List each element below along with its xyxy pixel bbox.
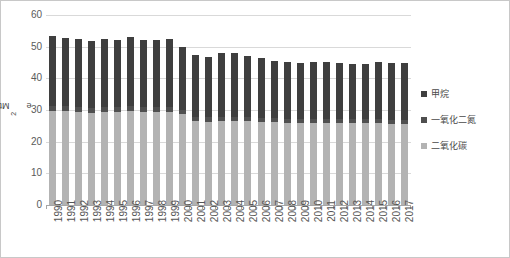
stacked-bar[interactable] [114, 40, 121, 205]
bar-slot[interactable] [359, 15, 372, 205]
stacked-bar[interactable] [323, 62, 330, 205]
bar-slot[interactable] [320, 15, 333, 205]
bar-slot[interactable] [176, 15, 189, 205]
bar-segment[interactable] [231, 121, 238, 205]
stacked-bar[interactable] [271, 61, 278, 205]
bar-slot[interactable] [398, 15, 411, 205]
bar-segment[interactable] [127, 111, 134, 205]
legend-item[interactable]: 二氧化碳 [421, 139, 507, 152]
stacked-bar[interactable] [231, 53, 238, 205]
bar-slot[interactable] [202, 15, 215, 205]
bar-segment[interactable] [75, 112, 82, 205]
bar-segment[interactable] [192, 121, 199, 205]
bar-segment[interactable] [310, 123, 317, 205]
bar-segment[interactable] [153, 40, 160, 107]
bar-segment[interactable] [205, 57, 212, 118]
bar-segment[interactable] [88, 113, 95, 205]
legend-item[interactable]: 甲烷 [421, 87, 507, 100]
bar-slot[interactable] [124, 15, 137, 205]
bar-segment[interactable] [88, 41, 95, 108]
bar-segment[interactable] [75, 39, 82, 107]
bar-segment[interactable] [49, 36, 56, 106]
stacked-bar[interactable] [401, 63, 408, 205]
bar-segment[interactable] [166, 39, 173, 106]
stacked-bar[interactable] [388, 63, 395, 205]
bar-slot[interactable] [98, 15, 111, 205]
stacked-bar[interactable] [375, 62, 382, 205]
bar-segment[interactable] [349, 64, 356, 118]
bar-segment[interactable] [62, 111, 69, 205]
bar-slot[interactable] [150, 15, 163, 205]
bar-segment[interactable] [153, 112, 160, 205]
bar-slot[interactable] [255, 15, 268, 205]
bar-segment[interactable] [388, 124, 395, 205]
bar-segment[interactable] [323, 123, 330, 205]
bar-slot[interactable] [333, 15, 346, 205]
bar-segment[interactable] [218, 121, 225, 205]
bar-slot[interactable] [85, 15, 98, 205]
bar-segment[interactable] [114, 40, 121, 107]
bar-segment[interactable] [244, 121, 251, 205]
bar-segment[interactable] [258, 58, 265, 118]
stacked-bar[interactable] [127, 37, 134, 205]
stacked-bar[interactable] [153, 40, 160, 205]
stacked-bar[interactable] [88, 41, 95, 205]
stacked-bar[interactable] [192, 55, 199, 205]
stacked-bar[interactable] [218, 53, 225, 205]
bar-segment[interactable] [388, 63, 395, 120]
stacked-bar[interactable] [244, 56, 251, 205]
stacked-bar[interactable] [49, 36, 56, 205]
bar-segment[interactable] [323, 62, 330, 119]
stacked-bar[interactable] [62, 38, 69, 205]
bar-segment[interactable] [192, 55, 199, 117]
bar-slot[interactable] [163, 15, 176, 205]
bar-segment[interactable] [284, 62, 291, 119]
bar-segment[interactable] [244, 56, 251, 117]
bar-segment[interactable] [362, 64, 369, 118]
bar-slot[interactable] [228, 15, 241, 205]
bar-segment[interactable] [349, 123, 356, 205]
bar-segment[interactable] [297, 123, 304, 205]
bar-slot[interactable] [111, 15, 124, 205]
bar-segment[interactable] [297, 63, 304, 120]
bar-slot[interactable] [294, 15, 307, 205]
bar-segment[interactable] [140, 40, 147, 107]
bar-slot[interactable] [268, 15, 281, 205]
stacked-bar[interactable] [336, 63, 343, 205]
bar-segment[interactable] [205, 122, 212, 205]
bar-slot[interactable] [241, 15, 254, 205]
bar-slot[interactable] [281, 15, 294, 205]
bar-segment[interactable] [179, 47, 186, 110]
bar-slot[interactable] [72, 15, 85, 205]
stacked-bar[interactable] [75, 39, 82, 205]
bar-segment[interactable] [49, 111, 56, 205]
bar-segment[interactable] [179, 114, 186, 205]
bar-slot[interactable] [59, 15, 72, 205]
bar-slot[interactable] [307, 15, 320, 205]
bar-segment[interactable] [336, 123, 343, 205]
bar-segment[interactable] [336, 63, 343, 119]
bar-segment[interactable] [62, 38, 69, 107]
bar-slot[interactable] [137, 15, 150, 205]
bar-segment[interactable] [101, 112, 108, 205]
bar-segment[interactable] [401, 63, 408, 120]
bar-slot[interactable] [189, 15, 202, 205]
stacked-bar[interactable] [166, 39, 173, 205]
bar-segment[interactable] [258, 122, 265, 205]
bar-segment[interactable] [271, 122, 278, 205]
legend-item[interactable]: 一氧化二氮 [421, 113, 507, 126]
stacked-bar[interactable] [101, 39, 108, 205]
stacked-bar[interactable] [297, 63, 304, 205]
bar-segment[interactable] [140, 112, 147, 205]
bar-slot[interactable] [346, 15, 359, 205]
bar-slot[interactable] [46, 15, 59, 205]
bar-segment[interactable] [166, 112, 173, 205]
bar-segment[interactable] [101, 39, 108, 107]
bar-segment[interactable] [231, 53, 238, 117]
stacked-bar[interactable] [205, 57, 212, 206]
stacked-bar[interactable] [310, 62, 317, 205]
stacked-bar[interactable] [140, 40, 147, 205]
bar-segment[interactable] [127, 37, 134, 106]
stacked-bar[interactable] [349, 64, 356, 205]
bar-segment[interactable] [362, 123, 369, 205]
